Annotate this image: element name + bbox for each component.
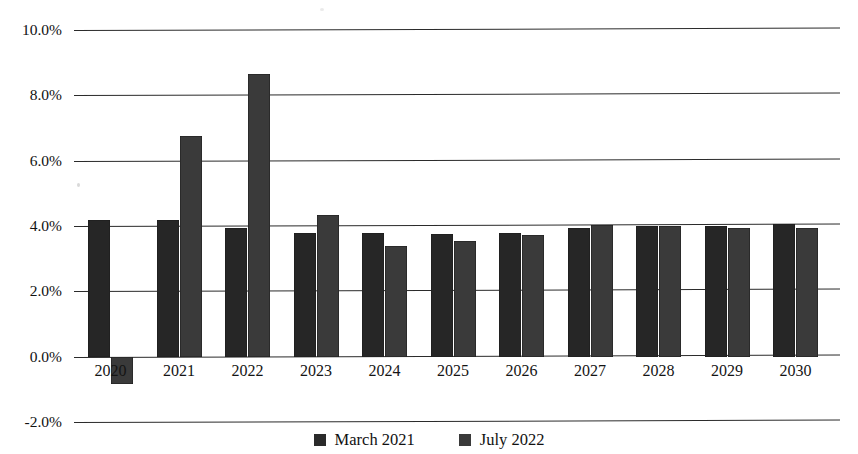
bar-chart: 10.0%8.0%6.0%4.0%2.0%0.0%-2.0% 202020212…	[0, 0, 858, 454]
bar	[499, 233, 521, 357]
x-axis-tick-label: 2030	[780, 362, 812, 380]
y-axis-tick-label: 6.0%	[0, 153, 62, 168]
x-axis-tick-label: 2022	[232, 362, 264, 380]
x-axis-tick-label: 2024	[369, 362, 401, 380]
chart-legend: March 2021 July 2022	[0, 430, 858, 450]
bar	[568, 228, 590, 357]
bar	[454, 241, 476, 357]
bar	[385, 246, 407, 357]
y-axis-tick-label: -2.0%	[0, 414, 62, 429]
scan-speck	[77, 183, 80, 187]
plot-area: 10.0%8.0%6.0%4.0%2.0%0.0%-2.0% 202020212…	[0, 0, 858, 454]
bar	[796, 228, 818, 357]
bar	[773, 224, 795, 356]
bar	[659, 226, 681, 357]
gridline	[74, 28, 840, 31]
scan-speck	[320, 8, 324, 11]
bar	[180, 136, 202, 357]
legend-swatch-icon	[314, 434, 326, 446]
y-axis-tick-label: 4.0%	[0, 218, 62, 233]
y-axis-tick-label: 8.0%	[0, 87, 62, 102]
bar	[225, 228, 247, 357]
bar	[591, 225, 613, 356]
bar	[636, 226, 658, 357]
bar	[157, 220, 179, 357]
x-axis-tick-label: 2023	[300, 362, 332, 380]
bar	[431, 234, 453, 357]
legend-label: July 2022	[480, 430, 545, 450]
x-axis-tick-label: 2021	[163, 362, 195, 380]
y-axis-tick-label: 2.0%	[0, 283, 62, 298]
x-axis-tick-label: 2027	[574, 362, 606, 380]
x-axis-tick-label: 2026	[506, 362, 538, 380]
y-axis-tick-label: 0.0%	[0, 349, 62, 364]
gridline	[74, 93, 840, 96]
legend-item-march-2021: March 2021	[314, 430, 415, 450]
x-axis-tick-label: 2025	[437, 362, 469, 380]
gridline	[74, 420, 840, 423]
bar	[728, 228, 750, 357]
x-axis-tick-label: 2029	[711, 362, 743, 380]
bar	[294, 233, 316, 357]
legend-item-july-2022: July 2022	[459, 430, 545, 450]
legend-swatch-icon	[459, 434, 471, 446]
y-axis-tick-label: 10.0%	[0, 22, 62, 37]
bar	[362, 233, 384, 357]
bar	[317, 215, 339, 357]
bar	[522, 235, 544, 357]
bar	[248, 74, 270, 357]
x-axis-tick-label: 2028	[643, 362, 675, 380]
bar	[88, 220, 110, 357]
bar	[705, 226, 727, 357]
x-axis-tick-label: 2020	[95, 362, 127, 380]
legend-label: March 2021	[335, 430, 415, 450]
